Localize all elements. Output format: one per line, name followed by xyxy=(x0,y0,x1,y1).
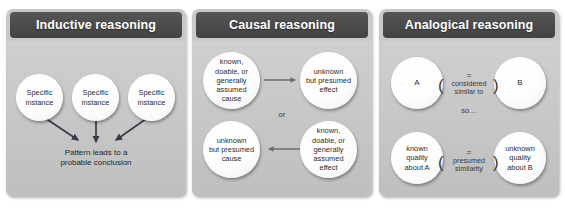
circle-text-line: about A xyxy=(404,163,429,172)
circle-text-line: B xyxy=(517,78,522,88)
circle-known-cause: known, doable, or generally assumed caus… xyxy=(203,52,260,109)
circle-text-line: generally xyxy=(215,76,248,85)
circle-text-line: doable, or xyxy=(312,136,345,145)
conclusion-line-2: probable conclusion xyxy=(60,158,131,167)
panel-title-causal: Causal reasoning xyxy=(196,12,368,38)
circle-specific-instance-1: Specific instance xyxy=(16,74,63,121)
inductive-conclusion-text: Pattern leads to a probable conclusion xyxy=(24,148,168,169)
circle-text-line: known xyxy=(404,144,429,153)
circle-text-line: known, xyxy=(312,126,345,135)
circle-text-line: known, xyxy=(215,57,248,66)
circle-text-line: unknown xyxy=(505,144,535,153)
circle-text-line: unknown xyxy=(306,67,351,76)
circle-text-line: cause xyxy=(215,94,248,103)
circle-text-line: Specific xyxy=(138,88,166,97)
relation-top-text: considered similar to xyxy=(443,80,495,97)
circle-unknown-effect: unknown but presumed effect xyxy=(300,52,357,109)
circle-text-line: doable, or xyxy=(215,67,248,76)
circle-text-line: unknown xyxy=(209,136,254,145)
circle-unknown-quality-about-b: unknown quality about B xyxy=(494,132,546,184)
panel-title-inductive: Inductive reasoning xyxy=(10,12,182,38)
circle-known-quality-about-a: known quality about A xyxy=(391,132,443,184)
circle-specific-instance-3: Specific instance xyxy=(128,74,175,121)
circle-text-line: assumed xyxy=(215,85,248,94)
circle-text-line: quality xyxy=(404,153,429,162)
causal-connector-or: or xyxy=(260,110,304,119)
circle-text-line: quality xyxy=(505,153,535,162)
relation-top-line-2: similar to xyxy=(455,87,484,96)
circle-text-line: instance xyxy=(82,98,110,107)
circle-text-line: cause xyxy=(209,154,254,163)
circle-known-effect: known, doable, or generally assumed effe… xyxy=(300,121,357,178)
conclusion-line-1: Pattern leads to a xyxy=(65,148,128,157)
circle-text-line: Specific xyxy=(26,88,54,97)
circle-text-line: effect xyxy=(312,163,345,172)
analogical-connector-so: so… xyxy=(443,106,495,115)
circle-text-line: about B xyxy=(505,163,535,172)
circle-text-line: A xyxy=(414,78,419,88)
reasoning-types-diagram: Inductive reasoning Specific instance Sp… xyxy=(0,0,565,214)
circle-text-line: instance xyxy=(138,98,166,107)
circle-b: B xyxy=(494,57,546,109)
circle-unknown-cause: unknown but presumed cause xyxy=(203,121,260,178)
circle-text-line: assumed xyxy=(312,154,345,163)
panel-inductive-reasoning: Inductive reasoning Specific instance Sp… xyxy=(6,9,186,196)
circle-text-line: instance xyxy=(26,98,54,107)
circle-text-line: but presumed xyxy=(306,76,351,85)
circle-text-line: effect xyxy=(306,85,351,94)
circle-a: A xyxy=(391,57,443,109)
relation-bottom-text: presumed similarity xyxy=(443,157,495,174)
circle-text-line: generally xyxy=(312,145,345,154)
circle-text-line: but presumed xyxy=(209,145,254,154)
panel-causal-reasoning: Causal reasoning known, doable, or gener… xyxy=(192,9,372,196)
circle-text-line: Specific xyxy=(82,88,110,97)
relation-bottom-line-2: similarity xyxy=(455,164,483,173)
panel-analogical-reasoning: Analogical reasoning A B known quality a… xyxy=(379,9,559,196)
panel-title-analogical: Analogical reasoning xyxy=(383,12,555,38)
circle-specific-instance-2: Specific instance xyxy=(72,74,119,121)
